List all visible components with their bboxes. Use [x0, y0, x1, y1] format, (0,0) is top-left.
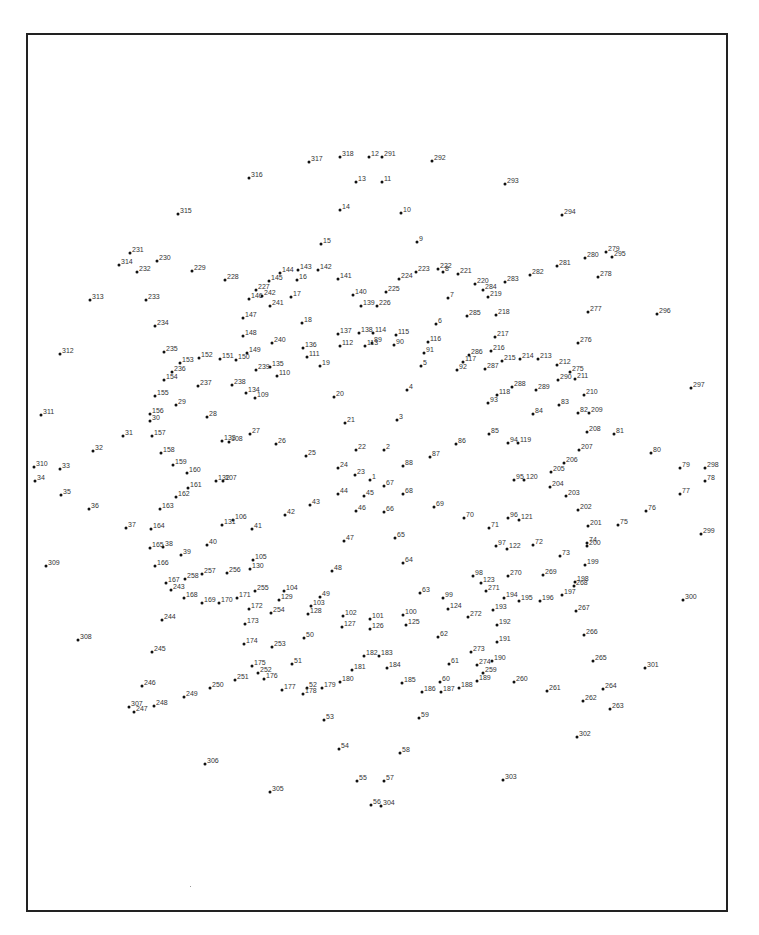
dot-number: 295 — [614, 250, 626, 257]
dot-field: 1234567891011121314151617181920212223242… — [0, 0, 759, 935]
dot-number: 38 — [165, 540, 173, 547]
dot-number: 70 — [466, 511, 474, 518]
dot-number: 151 — [222, 352, 234, 359]
dot-number: 36 — [91, 502, 99, 509]
dot-number: 138 — [361, 326, 373, 333]
dot-number: 250 — [212, 681, 224, 688]
dot-number: 84 — [535, 407, 543, 414]
dot-number: 260 — [516, 675, 528, 682]
dot-number: 254 — [273, 606, 285, 613]
dot-number: 160 — [189, 466, 201, 473]
dot-number: 218 — [498, 308, 510, 315]
dot-number: 199 — [587, 558, 599, 565]
dot-number: 127 — [344, 620, 356, 627]
dot-number: 293 — [507, 177, 519, 184]
dot-number: 216 — [493, 344, 505, 351]
dot-number: 286 — [471, 348, 483, 355]
dot-number: 73 — [562, 549, 570, 556]
dot-number: 172 — [251, 602, 263, 609]
dot-number: 90 — [396, 338, 404, 345]
dot-number: 261 — [549, 684, 561, 691]
dot-number: 313 — [92, 293, 104, 300]
dot-number: 312 — [62, 347, 74, 354]
dot-number: 300 — [685, 593, 697, 600]
dot-number: 92 — [459, 363, 467, 370]
dot-number: 255 — [257, 584, 269, 591]
dot-number: 243 — [173, 583, 185, 590]
dot-number: 281 — [559, 259, 571, 266]
dot-number: 152 — [201, 351, 213, 358]
dot-number: 177 — [284, 683, 296, 690]
dot-number: 71 — [491, 521, 499, 528]
dot-number: 211 — [577, 372, 588, 379]
dot-number: 126 — [372, 622, 384, 629]
dot-number: 3 — [399, 413, 403, 420]
dot-number: 196 — [542, 594, 554, 601]
dot-number: 64 — [405, 556, 413, 563]
dot-number: 21 — [347, 416, 355, 423]
dot-number: 307 — [131, 700, 143, 707]
dot-number: 10 — [403, 206, 411, 213]
dot-number: 129 — [281, 593, 293, 600]
dot-number: 135 — [272, 360, 284, 367]
dot-number: 124 — [450, 602, 462, 609]
dot-number: 235 — [166, 345, 178, 352]
dot-number: 14 — [342, 203, 350, 210]
dot-number: 318 — [342, 150, 354, 157]
dot-number: 191 — [499, 635, 511, 642]
dot-number: 268 — [576, 579, 588, 586]
dot-number: 67 — [386, 479, 394, 486]
dot-number: 111 — [309, 350, 320, 357]
dot-number: 2 — [386, 443, 390, 450]
dot-number: 76 — [648, 504, 656, 511]
dot-number: 246 — [144, 679, 156, 686]
dot-number: 32 — [95, 444, 103, 451]
dot-number: 99 — [445, 591, 453, 598]
dot-number: 79 — [682, 461, 690, 468]
dot-number: 280 — [587, 251, 599, 258]
dot-number: 18 — [304, 316, 312, 323]
dot-number: 117 — [465, 355, 476, 362]
dot-number: 46 — [358, 504, 366, 511]
dot-number: 27 — [252, 427, 260, 434]
dot-number: 256 — [229, 566, 241, 573]
dot-number: 271 — [488, 584, 500, 591]
dot-number: 163 — [162, 502, 174, 509]
dot-number: 288 — [514, 380, 526, 387]
dot-number: 188 — [461, 681, 473, 688]
dot-number: 42 — [287, 508, 295, 515]
dot-number: 62 — [440, 630, 448, 637]
dot-number: 202 — [580, 503, 592, 510]
dot-number: 178 — [305, 687, 317, 694]
dot-number: 39 — [183, 548, 191, 555]
dot-number: 294 — [564, 208, 576, 215]
dot-number: 80 — [653, 446, 661, 453]
dot-number: 287 — [487, 362, 499, 369]
dot-number: 57 — [386, 774, 394, 781]
dot-number: 63 — [422, 586, 430, 593]
dot-number: 85 — [491, 427, 499, 434]
dot-number: 132 — [218, 474, 230, 481]
dot-number: 316 — [251, 171, 263, 178]
dot-number: 5 — [423, 359, 427, 366]
dot-number: 28 — [209, 410, 217, 417]
dot-number: 249 — [186, 690, 198, 697]
dot-number: 297 — [693, 381, 705, 388]
dot-number: 234 — [157, 319, 169, 326]
dot-number: 213 — [540, 352, 552, 359]
dot-number: 161 — [190, 481, 202, 488]
dot-number: 167 — [168, 576, 180, 583]
dot-number: 292 — [434, 154, 446, 161]
dot-number: 113 — [367, 339, 378, 346]
dot-number: 47 — [346, 534, 354, 541]
dot-number: 55 — [359, 774, 367, 781]
dot-number: 22 — [358, 443, 366, 450]
dot-number: 302 — [579, 730, 591, 737]
dot-number: 236 — [174, 365, 186, 372]
dot-number: 4 — [409, 383, 413, 390]
dot-number: 118 — [499, 388, 510, 395]
dot-number: 195 — [521, 594, 533, 601]
dot-number: 244 — [164, 613, 176, 620]
dot-number: 183 — [381, 649, 393, 656]
dot-number: 189 — [479, 674, 491, 681]
